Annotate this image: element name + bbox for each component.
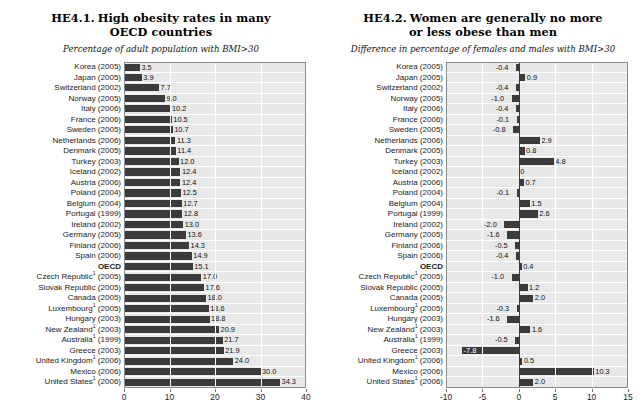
bar-track: -0.5 <box>446 335 628 346</box>
chart-row: Korea (2005)-0.4 <box>322 62 644 73</box>
bar-value-label: 18.6 <box>210 304 224 314</box>
bar-value-label: 0.7 <box>525 178 535 188</box>
bar <box>124 242 189 249</box>
category-label: Ireland (2002) <box>0 220 124 231</box>
category-label: New Zealand1 (2003) <box>322 325 446 336</box>
chart-plot-he42: Korea (2005)-0.4Japan (2005)0.9Switzerla… <box>322 0 644 405</box>
chart-row: Slovak Republic (2005)1.2 <box>322 283 644 294</box>
bar <box>124 337 223 344</box>
chart-row: Turkey (2003)4.8 <box>322 157 644 168</box>
chart-row: Netherlands (2006)11.3 <box>0 136 322 147</box>
category-label: Netherlands (2006) <box>0 136 124 147</box>
chart-row: New Zealand1 (2003)20.9 <box>0 325 322 336</box>
bar <box>519 158 554 165</box>
category-label: United Kingdom1 (2006) <box>322 356 446 367</box>
bar-track: 12.0 <box>124 157 306 168</box>
bar <box>124 316 210 323</box>
bar-value-label: 3.9 <box>143 73 153 83</box>
bar <box>519 210 538 217</box>
bar-value-label: -0.8 <box>493 125 506 135</box>
x-axis-he41: 010203040 <box>124 389 306 405</box>
bar-value-label: 0.8 <box>526 146 536 156</box>
bar <box>519 358 523 365</box>
bar-track: -0.4 <box>446 104 628 115</box>
chart-row: Portugal (1999)2.6 <box>322 209 644 220</box>
category-label: Denmark (2005) <box>322 146 446 157</box>
bar-value-label: 12.7 <box>183 199 197 209</box>
category-label: Norway (2005) <box>0 94 124 105</box>
category-label: Austria (2006) <box>0 178 124 189</box>
bar <box>507 316 519 323</box>
bar-track: 2.0 <box>446 377 628 388</box>
bar <box>515 242 519 249</box>
chart-row: Germany (2005)-1.6 <box>322 230 644 241</box>
chart-row: Austria (2006)0.7 <box>322 178 644 189</box>
bar <box>124 252 192 259</box>
bar <box>124 116 172 123</box>
bar-track: -0.1 <box>446 188 628 199</box>
chart-row: United States1 (2006)34.3 <box>0 377 322 388</box>
chart-row: Ireland (2002)-2.0 <box>322 220 644 231</box>
category-label: Portugal (1999) <box>322 209 446 220</box>
bar-track: 17.0 <box>124 272 306 283</box>
chart-row: Italy (2006)10.2 <box>0 104 322 115</box>
chart-row: Iceland (2002)0 <box>322 167 644 178</box>
bar <box>124 295 206 302</box>
bar-track: 18.8 <box>124 314 306 325</box>
chart-row: Finland (2006)14.3 <box>0 241 322 252</box>
bar-value-label: 14.3 <box>191 241 205 251</box>
bar-value-label: -0.4 <box>496 104 509 114</box>
category-label: Mexico (2006) <box>0 367 124 378</box>
bar <box>517 116 519 123</box>
bar-track: 0.7 <box>446 178 628 189</box>
bar-value-label: 7.7 <box>161 83 171 93</box>
bar-value-label: -0.5 <box>495 335 508 345</box>
axis-tick-label: 0 <box>516 392 521 402</box>
category-label: Turkey (2003) <box>0 157 124 168</box>
category-label: United States1 (2006) <box>322 377 446 388</box>
bar-track: 21.9 <box>124 346 306 357</box>
bar <box>519 74 526 81</box>
bar <box>124 137 175 144</box>
bar-track: 20.9 <box>124 325 306 336</box>
bar-track: 0.9 <box>446 73 628 84</box>
chart-row: Australia1 (1999)-0.5 <box>322 335 644 346</box>
chart-row: Slovak Republic (2005)17.6 <box>0 283 322 294</box>
figure-root: HE4.1.High obesity rates in many OECD co… <box>0 0 644 405</box>
axis-tick-label: 0 <box>122 392 127 402</box>
chart-row: United Kingdom1 (2006)24.0 <box>0 356 322 367</box>
category-label: France (2006) <box>322 115 446 126</box>
bar <box>519 295 534 302</box>
category-label: Greece (2003) <box>0 346 124 357</box>
bar <box>515 337 519 344</box>
category-label: Slovak Republic (2005) <box>0 283 124 294</box>
bar <box>519 368 594 375</box>
category-label: Canada (2005) <box>0 293 124 304</box>
category-label: United Kingdom1 (2006) <box>0 356 124 367</box>
bar-track: 11.3 <box>124 136 306 147</box>
bar-value-label: 30.0 <box>262 367 276 377</box>
bar <box>124 179 180 186</box>
category-label: Australia1 (1999) <box>0 335 124 346</box>
bar <box>124 368 261 375</box>
bar <box>124 284 204 291</box>
bar <box>124 200 182 207</box>
axis-tick-label: -10 <box>440 392 452 402</box>
bar <box>124 305 209 312</box>
bar <box>517 189 519 196</box>
chart-row: Netherlands (2006)2.9 <box>322 136 644 147</box>
axis-tick-label: 10 <box>587 392 596 402</box>
chart-row: Spain (2006)-0.4 <box>322 251 644 262</box>
bar <box>516 64 519 71</box>
bar <box>124 126 173 133</box>
category-label: Switzerland (2002) <box>0 83 124 94</box>
bar-value-label: 0.4 <box>523 262 533 272</box>
bar-value-label: 11.3 <box>177 136 191 146</box>
bar <box>519 179 524 186</box>
bar-track: 18.6 <box>124 304 306 315</box>
category-label: Italy (2006) <box>322 104 446 115</box>
bar <box>124 158 179 165</box>
bar-track: -1.6 <box>446 230 628 241</box>
bar <box>513 126 519 133</box>
chart-row: Ireland (2002)13.0 <box>0 220 322 231</box>
